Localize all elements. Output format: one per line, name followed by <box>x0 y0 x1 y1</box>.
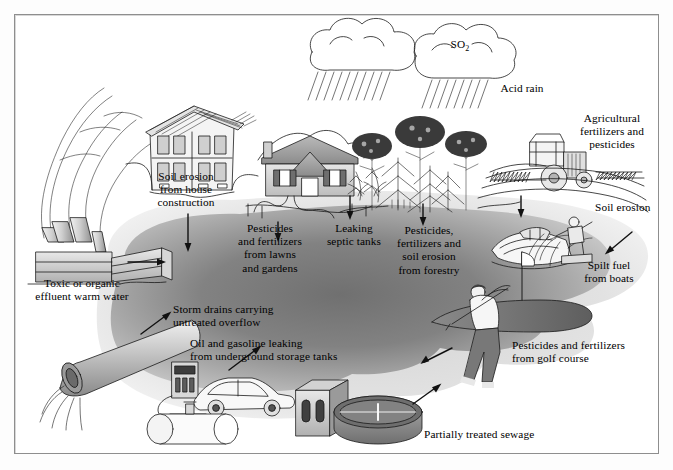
rain-cloud-right <box>414 24 516 108</box>
label-toxic-effluent: Toxic or organic effluent warm water <box>14 277 150 303</box>
label-agricultural: Agricultural fertilizers and pesticides <box>557 112 667 152</box>
label-oil-gasoline: Oil and gasoline leaking from undergroun… <box>190 337 412 363</box>
label-sewage: Partially treated sewage <box>424 428 594 441</box>
figure-canvas: Acid rain SO2 Soil erosion from house co… <box>0 0 673 470</box>
label-soil-erosion-house: Soil erosion from house construction <box>133 170 239 210</box>
label-spilt-fuel: Spilt fuel from boats <box>570 259 648 285</box>
label-pesticides-lawns: Pesticides and fertilizers from lawns an… <box>222 222 318 275</box>
label-pesticides-forestry: Pesticides, fertilizers and soil erosion… <box>379 224 479 277</box>
label-soil-erosion: Soil erosion <box>595 201 669 214</box>
label-storm-drains: Storm drains carrying untreated overflow <box>173 303 343 329</box>
rain-cloud-left <box>308 18 415 100</box>
label-acid-rain: Acid rain <box>481 82 563 95</box>
label-so2: SO2 <box>443 38 477 55</box>
sewage-clarifier <box>334 396 422 444</box>
label-golf-course: Pesticides and fertilizers from golf cou… <box>512 339 672 365</box>
